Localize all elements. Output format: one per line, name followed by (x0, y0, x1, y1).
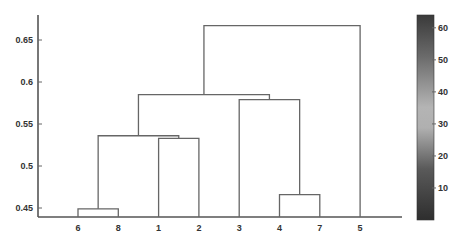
y-tick-label: 0.6 (20, 77, 33, 87)
leaf-label: 6 (75, 223, 80, 233)
colorbar: 102030405060 (417, 15, 448, 220)
y-tick-label: 0.55 (15, 119, 33, 129)
dendrogram-link (280, 195, 320, 217)
colorbar-tick-label: 20 (438, 151, 448, 161)
leaf-label: 7 (317, 223, 322, 233)
colorbar-ticks: 102030405060 (432, 23, 448, 193)
dendrogram-link (239, 100, 299, 217)
dendrogram-link (138, 95, 269, 136)
colorbar-tick-label: 40 (438, 87, 448, 97)
colorbar-tick-label: 30 (438, 119, 448, 129)
leaf-label: 5 (358, 223, 363, 233)
leaf-label: 8 (116, 223, 121, 233)
plot-area: 0.450.50.550.60.65 68123475 (15, 15, 402, 233)
y-tick-label: 0.5 (20, 161, 33, 171)
dendrogram-link (98, 136, 179, 209)
y-tick-label: 0.45 (15, 203, 33, 213)
x-axis-leaf-labels: 68123475 (75, 223, 362, 233)
dendrogram-link (78, 209, 118, 217)
dendrogram-link (204, 26, 360, 217)
colorbar-tick-label: 10 (438, 183, 448, 193)
dendrogram-link (159, 138, 199, 217)
y-tick-label: 0.65 (15, 35, 33, 45)
colorbar-tick-label: 60 (438, 23, 448, 33)
dendrogram-chart: 0.450.50.550.60.65 68123475 102030405060 (0, 0, 461, 242)
colorbar-gradient (417, 15, 434, 220)
leaf-label: 2 (196, 223, 201, 233)
dendrogram-links (78, 26, 360, 217)
leaf-label: 3 (237, 223, 242, 233)
leaf-label: 1 (156, 223, 161, 233)
colorbar-tick-label: 50 (438, 55, 448, 65)
leaf-label: 4 (277, 223, 282, 233)
